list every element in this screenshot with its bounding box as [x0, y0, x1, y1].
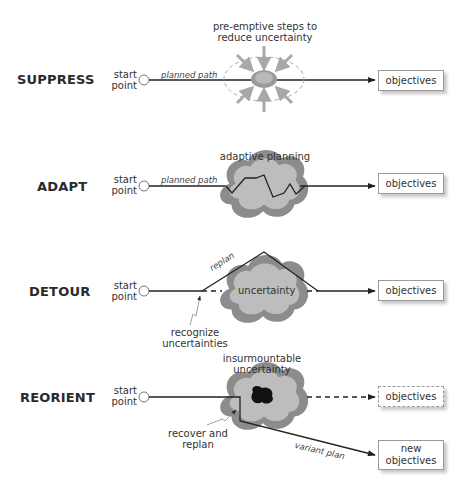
old-objectives-box: objectives [378, 386, 444, 407]
adapt-note: adaptive planning [210, 151, 320, 162]
start-point-label: start point [97, 174, 137, 196]
row-label-suppress: SUPPRESS [17, 72, 95, 87]
row-label-reorient: REORIENT [20, 390, 95, 405]
recognize-note: recognize uncertainties [160, 327, 230, 349]
suppress-note: pre-emptive steps to reduce uncertainty [210, 21, 320, 43]
start-point-label: start point [97, 385, 137, 407]
new-objectives-box: new objectives [378, 440, 444, 470]
objectives-box: objectives [378, 280, 444, 301]
objectives-box: objectives [378, 173, 444, 194]
objectives-box: objectives [378, 70, 444, 91]
insurmountable-note: insurmountable uncertainty [222, 353, 302, 375]
strategy-diagram: SUPPRESS start point planned path pre-em… [0, 0, 473, 501]
planned-path-label: planned path [161, 175, 217, 185]
planned-path-label: planned path [161, 70, 217, 80]
row-label-detour: DETOUR [29, 284, 90, 299]
row-label-adapt: ADAPT [37, 179, 87, 194]
uncertainty-label: uncertainty [238, 285, 288, 296]
start-point-label: start point [97, 280, 137, 302]
start-point-label: start point [97, 69, 137, 91]
recover-note: recover and replan [165, 428, 231, 450]
